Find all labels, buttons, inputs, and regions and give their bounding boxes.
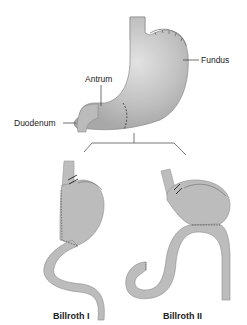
billroth-1-caption: Billroth I xyxy=(53,312,90,321)
stomach-diagram xyxy=(0,0,247,325)
bracket-connector xyxy=(84,133,186,155)
whole-stomach xyxy=(63,17,199,132)
antrum-label: Antrum xyxy=(85,75,112,84)
billroth-2-jejunal-loop xyxy=(126,224,230,300)
fundus-label: Fundus xyxy=(201,56,229,65)
billroth-2-illustration xyxy=(126,169,230,300)
billroth-1-illustration xyxy=(44,161,105,320)
billroth-1-remnant xyxy=(60,180,104,245)
duodenum-label: Duodenum xyxy=(14,119,56,128)
billroth-1-duodenum xyxy=(44,240,105,320)
billroth-2-caption: Billroth II xyxy=(163,312,202,321)
billroth-2-remnant xyxy=(167,180,230,225)
